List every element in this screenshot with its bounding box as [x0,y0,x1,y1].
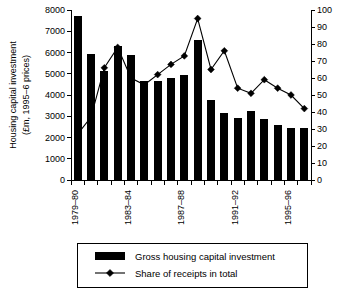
y-axis-right-tick-label: 90 [317,22,327,32]
bar [180,75,188,180]
y-axis-left-tick-label: 0 [60,175,65,185]
bar [220,113,228,180]
x-axis-tick-label: 1995–96 [283,190,293,225]
bar [74,16,82,180]
x-axis-tick-label: 1979–80 [70,190,80,225]
y-axis-left-tick-label: 2000 [45,133,65,143]
bar [207,100,215,180]
y-axis-right-tick-label: 100 [317,5,332,15]
line-series [78,19,305,135]
bar-series [74,16,309,180]
bar [287,128,295,180]
y-axis-left-title: Housing capital investment [8,41,18,149]
bar [100,71,108,180]
y-axis-right-tick-label: 60 [317,73,327,83]
y-axis-right-tick-label: 20 [317,141,327,151]
line-series-markers [74,15,307,137]
x-axis-tick-label: 1987–88 [176,190,186,225]
bar [140,81,148,180]
legend-swatch-bar [95,252,125,260]
y-axis-left-tick-label: 5000 [45,69,65,79]
bar [300,128,308,180]
y-axis-right-tick-label: 70 [317,56,327,66]
y-axis-left-tick-label: 3000 [45,111,65,121]
y-axis-left-tick-label: 8000 [45,5,65,15]
legend-box [77,243,307,287]
y-axis-right-tick-label: 40 [317,107,327,117]
chart-figure: 0100020003000400050006000700080000102030… [0,0,348,295]
bar [127,55,135,180]
y-axis-right-tick-label: 10 [317,158,327,168]
legend-label-bar: Gross housing capital investment [135,251,275,262]
y-axis-left-tick-label: 6000 [45,48,65,58]
y-axis-right-tick-label: 50 [317,90,327,100]
bar [154,81,162,180]
y-axis-right-tick-label: 30 [317,124,327,134]
bar [167,78,175,180]
diamond-marker [101,64,108,71]
bar [247,111,255,180]
diamond-marker [234,85,241,92]
bar [274,125,282,180]
diamond-marker [274,85,281,92]
diamond-marker [181,53,188,60]
housing-capital-investment-chart: 0100020003000400050006000700080000102030… [0,0,348,295]
diamond-marker [208,66,215,73]
y-axis-left-tick-label: 4000 [45,90,65,100]
y-axis-left-tick-label: 1000 [45,154,65,164]
y-axis-right-tick-label: 0 [317,175,322,185]
bar [260,119,268,180]
legend-label-line: Share of receipts in total [135,268,237,279]
y-axis-left-title-units: (£m, 1995–6 prices) [21,55,31,135]
diamond-marker [194,15,201,22]
y-axis-right-tick-label: 80 [317,39,327,49]
legend-swatch-diamond-marker [106,269,113,276]
bar [234,118,242,180]
bar [114,46,122,180]
x-axis-tick-label: 1991–92 [230,190,240,225]
bar [194,40,202,180]
y-axis-left-tick-label: 7000 [45,26,65,36]
diamond-marker [221,47,228,54]
x-axis-tick-label: 1983–84 [123,190,133,225]
